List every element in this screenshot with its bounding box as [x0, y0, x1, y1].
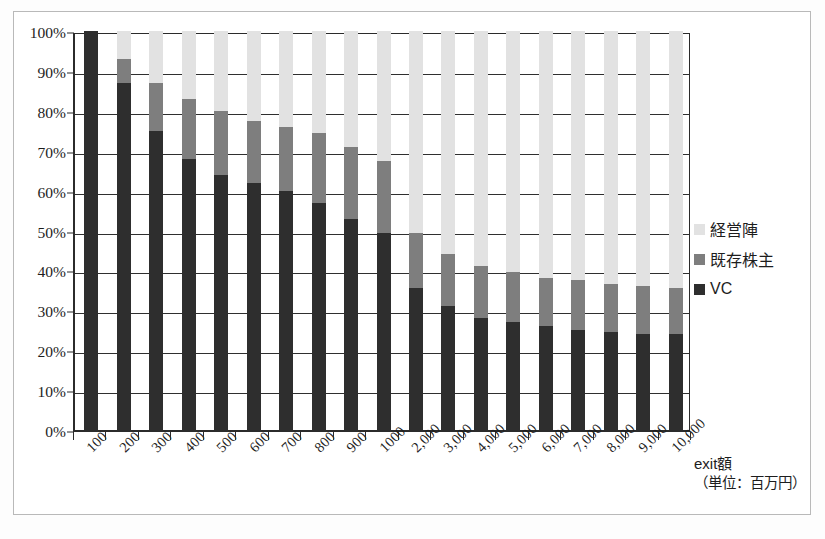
x-axis-tick-mark [170, 432, 171, 440]
bar-stack [344, 31, 358, 430]
bar-stack [214, 31, 228, 430]
bar-segment-vc [409, 288, 423, 430]
bar-stack [312, 31, 326, 430]
x-axis-title-line2: （単位：百万円） [694, 474, 806, 492]
bar-segment-existing-shareholders [149, 83, 163, 131]
x-axis-tick-mark [235, 432, 236, 440]
x-axis-tick-mark [300, 432, 301, 440]
y-axis-tick-mark [67, 272, 74, 273]
bar-segment-vc [474, 318, 488, 430]
bar-stack [604, 31, 618, 430]
bar-segment-management [506, 31, 520, 272]
bar-segment-existing-shareholders [441, 254, 455, 306]
bar-segment-management [279, 31, 293, 127]
bar-segment-vc [117, 83, 131, 430]
y-axis-tick-mark [67, 33, 74, 34]
bar-segment-management [117, 31, 131, 59]
x-axis-tick-mark [138, 432, 139, 440]
bar-segment-management [571, 31, 585, 280]
bar-stack [474, 31, 488, 430]
y-axis-tick-label: 0% [4, 424, 66, 440]
bar-segment-management [474, 31, 488, 266]
bar-stack [377, 31, 391, 430]
bar-segment-existing-shareholders [571, 280, 585, 330]
bar-segment-vc [377, 233, 391, 431]
bar-segment-management [149, 31, 163, 83]
y-axis-tick-label: 70% [4, 145, 66, 161]
bar-segment-management [441, 31, 455, 254]
bar-stack [539, 31, 553, 430]
bar-segment-existing-shareholders [247, 121, 261, 183]
y-axis-tick-mark [67, 112, 74, 113]
y-axis-tick-label: 10% [4, 384, 66, 400]
bar-segment-vc [636, 334, 650, 430]
bar-segment-existing-shareholders [409, 233, 423, 289]
y-axis-tick-mark [67, 72, 74, 73]
bar-segment-management [377, 31, 391, 161]
bar-stack [182, 31, 196, 430]
x-axis-tick-mark [560, 432, 561, 440]
x-axis-tick-mark [398, 432, 399, 440]
bar-segment-vc [149, 131, 163, 430]
legend-item: 既存株主 [694, 244, 806, 274]
x-axis-tick-mark [430, 432, 431, 440]
x-axis-tick-mark [268, 432, 269, 440]
bar-segment-vc [312, 203, 326, 430]
legend-swatch-icon [694, 284, 705, 295]
bar-stack [571, 31, 585, 430]
chart-figure: 0%10%20%30%40%50%60%70%80%90%100% 100200… [0, 0, 825, 539]
bar-segment-existing-shareholders [312, 133, 326, 203]
bar-segment-vc [247, 183, 261, 430]
bar-stack [149, 31, 163, 430]
x-axis-tick-mark [463, 432, 464, 440]
y-axis-tick-mark [67, 312, 74, 313]
bar-stack [441, 31, 455, 430]
bar-stack [84, 31, 98, 430]
y-axis-tick-label: 30% [4, 305, 66, 321]
y-axis-tick-label: 80% [4, 105, 66, 121]
x-axis-title-line1: exit額 [694, 455, 806, 474]
legend-label: 既存株主 [710, 247, 774, 271]
legend-item: 経営陣 [694, 214, 806, 244]
y-axis: 0%10%20%30%40%50%60%70%80%90%100% [0, 33, 66, 432]
y-axis-tick-label: 60% [4, 185, 66, 201]
x-axis-tick-mark [495, 432, 496, 440]
x-axis-tick-mark [658, 432, 659, 440]
plot-area [73, 33, 690, 432]
legend-label: 経営陣 [710, 217, 758, 241]
y-axis-tick-mark [67, 352, 74, 353]
bar-segment-existing-shareholders [669, 288, 683, 334]
y-axis-tick-mark [67, 232, 74, 233]
bar-segment-management [214, 31, 228, 111]
bar-segment-existing-shareholders [506, 272, 520, 322]
bar-segment-vc [539, 326, 553, 430]
bar-segment-management [344, 31, 358, 147]
bar-segment-existing-shareholders [636, 286, 650, 334]
bar-segment-existing-shareholders [182, 99, 196, 159]
bar-segment-management [182, 31, 196, 99]
bar-segment-management [247, 31, 261, 121]
bar-segment-existing-shareholders [117, 59, 131, 83]
y-axis-tick-mark [67, 192, 74, 193]
bar-segment-management [539, 31, 553, 278]
x-axis-tick-mark [73, 432, 74, 440]
y-axis-tick-mark [67, 392, 74, 393]
bar-stack [117, 31, 131, 430]
x-axis-tick-mark [528, 432, 529, 440]
bar-segment-vc [441, 306, 455, 430]
bar-segment-vc [279, 191, 293, 430]
bar-segment-existing-shareholders [377, 161, 391, 233]
x-axis-tick-mark [365, 432, 366, 440]
y-axis-tick-label: 90% [4, 65, 66, 81]
legend-item: VC [694, 274, 806, 304]
bar-segment-vc [604, 332, 618, 430]
bar-segment-management [669, 31, 683, 288]
legend-label: VC [710, 280, 732, 298]
y-axis-tick-label: 40% [4, 265, 66, 281]
legend-swatch-icon [694, 224, 705, 235]
bar-segment-existing-shareholders [474, 266, 488, 318]
x-axis-tick-mark [593, 432, 594, 440]
bar-segment-vc [669, 334, 683, 430]
x-axis-tick-mark [105, 432, 106, 440]
bar-stack [669, 31, 683, 430]
